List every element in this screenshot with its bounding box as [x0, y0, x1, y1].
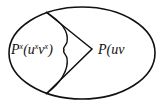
label-text: (u — [23, 42, 35, 57]
left-region-label: Px(uxvx) — [11, 43, 53, 57]
label-base: P — [11, 42, 20, 57]
right-region-label: P(uv — [98, 43, 124, 57]
label-text: ) — [48, 42, 53, 57]
